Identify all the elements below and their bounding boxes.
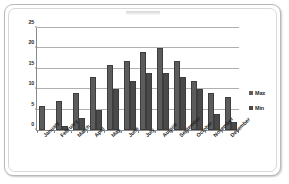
x-axis-label-slot: June xyxy=(121,133,138,172)
bar-group xyxy=(155,28,172,130)
y-axis-tick-label: 25 xyxy=(28,19,34,25)
bar-group xyxy=(205,28,222,130)
y-axis-tick-label: 20 xyxy=(28,39,34,45)
plot-area: 0510152025 xyxy=(36,28,239,131)
bar-group xyxy=(121,28,138,130)
bar-min-may xyxy=(113,89,119,130)
x-axis-label-slot: February xyxy=(53,133,70,172)
bar-min-july xyxy=(146,73,152,130)
bar-series-container xyxy=(37,28,239,130)
chart-legend: MaxMin xyxy=(249,90,277,120)
bar-min-october xyxy=(197,89,203,130)
x-axis-label-slot: November xyxy=(205,133,222,172)
y-axis-tick-label: 10 xyxy=(28,80,34,86)
x-axis-labels: JanuaryFebruaryMarchAprilMayJuneJulyAugu… xyxy=(36,133,239,172)
y-axis-tick-label: 5 xyxy=(31,101,34,107)
bar-group xyxy=(222,28,239,130)
scan-artifact xyxy=(126,11,160,15)
bar-group xyxy=(87,28,104,130)
y-axis-tick-label: 15 xyxy=(28,60,34,66)
legend-item-min[interactable]: Min xyxy=(249,105,277,111)
legend-label: Max xyxy=(255,90,265,96)
bar-group xyxy=(138,28,155,130)
bar-min-september xyxy=(180,77,186,130)
bar-group xyxy=(71,28,88,130)
bar-min-august xyxy=(163,73,169,130)
chart-frame: 0510152025 JanuaryFebruaryMarchAprilMayJ… xyxy=(4,4,281,176)
x-axis-label-slot: April xyxy=(87,133,104,172)
legend-item-max[interactable]: Max xyxy=(249,90,277,96)
x-axis-label-slot: May xyxy=(104,133,121,172)
x-axis-label-slot: July xyxy=(138,133,155,172)
bar-group xyxy=(37,28,54,130)
x-axis-label-slot: March xyxy=(70,133,87,172)
bar-group xyxy=(104,28,121,130)
chart-inner-border: 0510152025 JanuaryFebruaryMarchAprilMayJ… xyxy=(8,8,277,172)
legend-label: Min xyxy=(255,105,264,111)
x-axis-label-slot: September xyxy=(171,133,188,172)
bar-max-january xyxy=(39,106,45,130)
legend-swatch-icon xyxy=(249,106,253,110)
bar-min-june xyxy=(130,81,136,130)
x-axis-label-slot: October xyxy=(188,133,205,172)
legend-swatch-icon xyxy=(249,91,253,95)
bar-group xyxy=(54,28,71,130)
bar-group xyxy=(172,28,189,130)
x-axis-label-slot: December xyxy=(222,133,239,172)
x-axis-label-slot: August xyxy=(154,133,171,172)
x-axis-label-slot: January xyxy=(36,133,53,172)
y-axis-tick-label: 0 xyxy=(31,121,34,127)
